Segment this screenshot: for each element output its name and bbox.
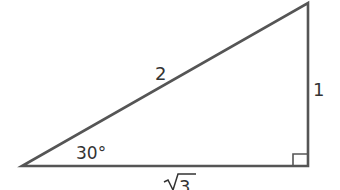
vertical-leg-label: 1 xyxy=(313,79,324,100)
triangle-diagram: 2 1 30° 3 xyxy=(0,0,340,190)
horizontal-leg-label: 3 xyxy=(164,174,196,190)
right-angle-marker xyxy=(293,154,308,166)
hypotenuse-label: 2 xyxy=(155,63,166,84)
triangle xyxy=(22,3,308,166)
angle-label: 30° xyxy=(76,143,106,163)
horizontal-leg-value: 3 xyxy=(179,176,190,190)
